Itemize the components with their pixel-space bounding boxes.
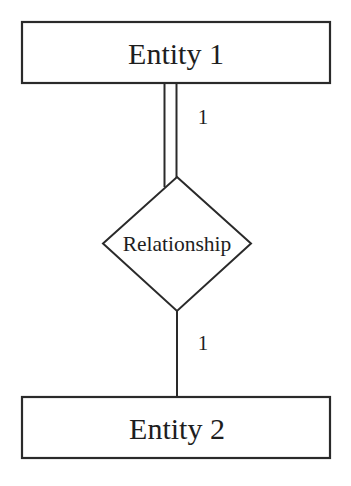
relationship-label: Relationship: [123, 232, 232, 256]
er-diagram: Entity 1 Relationship Entity 2 1 1: [0, 0, 351, 486]
relationship[interactable]: Relationship: [103, 177, 251, 311]
entity-1[interactable]: Entity 1: [22, 22, 330, 83]
cardinality-label-top: 1: [198, 105, 209, 129]
entity-1-label: Entity 1: [128, 37, 224, 70]
cardinality-label-bottom: 1: [198, 331, 209, 355]
entity-2-label: Entity 2: [129, 412, 225, 445]
connector-entity1-relationship: [165, 83, 177, 187]
entity-2[interactable]: Entity 2: [22, 397, 330, 458]
